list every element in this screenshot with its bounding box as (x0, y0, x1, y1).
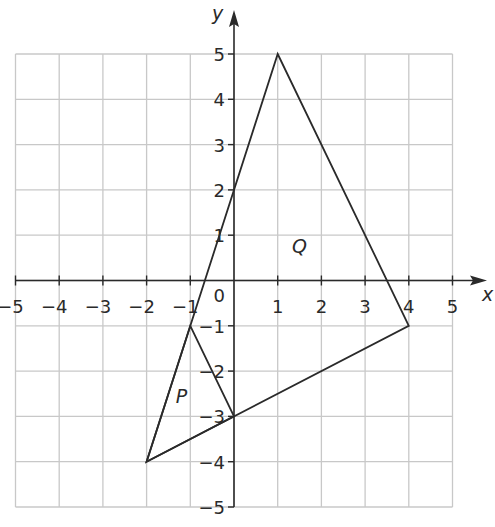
y-tick-label: 5 (214, 44, 225, 65)
x-tick-label: −2 (128, 296, 155, 317)
y-tick-label: −3 (198, 406, 225, 427)
y-tick-label: −1 (198, 316, 225, 337)
triangle-q-label: Q (292, 235, 307, 257)
y-tick-label: 4 (214, 89, 225, 110)
x-axis-label: x (481, 283, 494, 305)
x-tick-label: 4 (403, 296, 414, 317)
y-tick-label: −5 (198, 497, 225, 518)
x-tick-label: 3 (359, 296, 370, 317)
x-tick-label: 1 (272, 296, 283, 317)
x-tick-label: −3 (85, 296, 112, 317)
coordinate-plane: xy −5−4−3−2−11234554321−1−2−3−4−50 PQ (0, 0, 495, 527)
y-tick-label: 2 (214, 180, 225, 201)
axes: xy (16, 2, 495, 507)
x-tick-label: −4 (41, 296, 68, 317)
origin-label: 0 (214, 285, 225, 306)
y-axis-label: y (211, 2, 224, 24)
x-tick-label: −5 (0, 296, 24, 317)
y-tick-label: 3 (214, 135, 225, 156)
y-tick-label: −4 (198, 452, 225, 473)
triangle-p-label: P (176, 385, 188, 407)
x-tick-label: 2 (316, 296, 327, 317)
x-tick-label: 5 (447, 296, 458, 317)
